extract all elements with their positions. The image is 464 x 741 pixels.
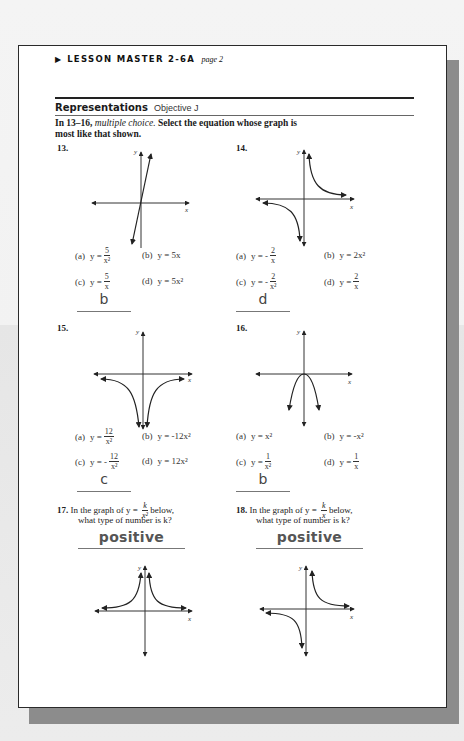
instructions-italic: multiple choice. xyxy=(95,118,156,128)
question-number-18: 18. xyxy=(236,505,247,515)
answer-line-14 xyxy=(236,311,290,312)
section-rule-thin xyxy=(55,115,414,116)
option-14c: (c)y = - 2x² xyxy=(236,272,276,291)
svg-text:y: y xyxy=(133,148,138,156)
option-15c: (c)y = - 12x² xyxy=(75,452,119,471)
graph-13: y x xyxy=(74,146,194,251)
question-number-17: 17. xyxy=(57,505,68,515)
svg-text:x: x xyxy=(349,203,354,211)
section-title: Representations xyxy=(55,102,148,113)
question-number-14: 14. xyxy=(236,143,247,153)
answer-line-17 xyxy=(78,548,185,549)
instructions: In 13–16, multiple choice. Select the eq… xyxy=(55,118,315,140)
question-18-line2: what type of number is k? xyxy=(256,514,350,527)
option-16d: (d)y = 1x xyxy=(324,452,359,471)
question-number-13: 13. xyxy=(57,143,68,153)
answer-18: positive xyxy=(256,529,363,545)
svg-text:y: y xyxy=(135,328,140,336)
svg-text:x: x xyxy=(349,613,354,621)
option-14b: (b)y = 2x² xyxy=(324,250,365,260)
svg-text:y: y xyxy=(298,564,303,572)
option-16b: (b)y = -x² xyxy=(324,431,364,441)
graph-15: y x xyxy=(74,326,194,431)
option-15b: (b)y = -12x² xyxy=(142,431,191,441)
lesson-header: ▶LESSON MASTER 2-6A page 2 xyxy=(55,54,223,64)
answer-line-13 xyxy=(77,311,131,312)
graph-16: y x xyxy=(254,326,374,431)
option-13a: (a)y = 5x² xyxy=(75,246,110,265)
answer-line-16 xyxy=(236,491,290,492)
answer-13: b xyxy=(77,291,131,307)
question-number-16: 16. xyxy=(236,323,247,333)
option-15a: (a)y = 12x² xyxy=(75,427,114,446)
worksheet-page: ▶LESSON MASTER 2-6A page 2 Representatio… xyxy=(18,45,447,708)
section-heading: RepresentationsObjective J xyxy=(55,102,198,113)
answer-15: c xyxy=(77,471,131,487)
svg-text:y: y xyxy=(296,148,301,156)
svg-text:x: x xyxy=(184,206,189,214)
svg-text:x: x xyxy=(347,378,352,386)
right-triangle-icon: ▶ xyxy=(55,55,61,64)
option-13b: (b)y = 5x xyxy=(142,250,181,260)
question-number-15: 15. xyxy=(57,323,68,333)
question-17-line2: what type of number is k? xyxy=(78,514,172,527)
option-16a: (a)y = x² xyxy=(236,431,272,441)
svg-text:y: y xyxy=(137,564,142,572)
option-14a: (a)y = - 2x xyxy=(236,246,276,265)
svg-text:x: x xyxy=(187,615,192,623)
graph-18: y x xyxy=(254,561,374,661)
answer-line-18 xyxy=(256,548,363,549)
option-15d: (d)y = 12x² xyxy=(142,456,188,466)
svg-text:y: y xyxy=(296,328,301,336)
answer-17: positive xyxy=(78,529,185,545)
option-14d: (d)y = 2x xyxy=(324,272,359,291)
answer-16: b xyxy=(236,471,290,487)
option-13d: (d)y = 5x² xyxy=(142,276,183,286)
graph-14: y x xyxy=(254,146,374,251)
svg-text:x: x xyxy=(187,376,192,384)
lesson-title: LESSON MASTER 2-6A xyxy=(67,54,195,64)
answer-line-15 xyxy=(77,491,131,492)
section-objective: Objective J xyxy=(154,103,199,113)
page-label: page 2 xyxy=(201,55,223,64)
answer-14: d xyxy=(236,291,290,307)
section-rule-thick xyxy=(55,97,414,99)
option-13c: (c)y = 5x xyxy=(75,272,110,291)
instructions-prefix: In 13–16, xyxy=(55,118,95,128)
option-16c: (c)y = 1x² xyxy=(236,452,271,471)
graph-17: y x xyxy=(74,561,194,661)
